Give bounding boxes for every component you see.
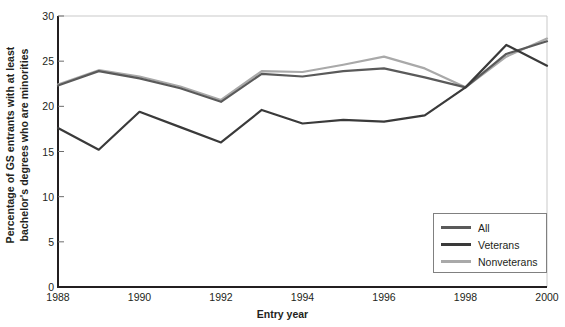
- legend-swatch-all: [441, 226, 471, 229]
- x-axis-tick-label: 1998: [454, 291, 477, 303]
- legend-label: All: [478, 222, 490, 234]
- series-line-nonveterans: [58, 39, 547, 100]
- legend-item-veterans: Veterans: [434, 236, 546, 253]
- chart-figure: Percentage of GS entrants with at least …: [0, 0, 565, 327]
- chart-legend: AllVeteransNonveterans: [433, 213, 547, 273]
- legend-swatch-veterans: [441, 243, 471, 246]
- x-axis-tick-label: 1992: [209, 291, 232, 303]
- x-axis-tick-label: 1990: [128, 291, 151, 303]
- legend-label: Veterans: [478, 239, 519, 251]
- legend-item-all: All: [434, 219, 546, 236]
- x-axis-tick-label: 1988: [46, 291, 69, 303]
- plot-area: [0, 0, 565, 327]
- x-axis-tick-label: 2000: [535, 291, 558, 303]
- x-axis-tick-label: 1994: [291, 291, 314, 303]
- series-line-veterans: [58, 45, 547, 150]
- x-axis-tick-label: 1996: [372, 291, 395, 303]
- legend-swatch-nonveterans: [441, 260, 471, 263]
- legend-item-nonveterans: Nonveterans: [434, 253, 546, 270]
- legend-label: Nonveterans: [478, 256, 538, 268]
- x-axis-title: Entry year: [0, 308, 565, 320]
